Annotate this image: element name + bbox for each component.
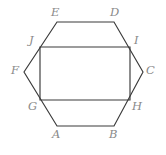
- vertex-label-H: H: [132, 101, 142, 113]
- geometry-figure: E D F C A B J I H G: [0, 0, 166, 155]
- vertex-label-B: B: [109, 129, 118, 141]
- figure-svg: [0, 0, 166, 155]
- vertex-label-E: E: [51, 7, 60, 19]
- vertex-label-F: F: [11, 65, 19, 77]
- vertex-label-J: J: [29, 35, 34, 47]
- vertex-label-I: I: [134, 35, 139, 47]
- vertex-label-C: C: [146, 65, 155, 77]
- vertex-label-D: D: [110, 7, 119, 19]
- vertex-label-A: A: [52, 129, 61, 141]
- inscribed-rectangle-outline: [40, 47, 130, 100]
- hexagon-outline: [24, 22, 143, 126]
- vertex-label-G: G: [28, 101, 37, 113]
